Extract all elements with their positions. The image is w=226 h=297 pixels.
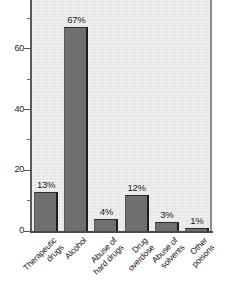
- bar: [64, 27, 88, 231]
- bar: [94, 219, 118, 231]
- y-tick-major: [24, 109, 31, 110]
- y-tick-minor: [27, 139, 31, 140]
- right-edge-mask: [214, 0, 226, 297]
- bar: [185, 228, 209, 231]
- bottom-edge-mask: [0, 292, 226, 297]
- y-tick-minor: [27, 79, 31, 80]
- y-tick-major: [24, 48, 31, 49]
- y-tick-major: [24, 231, 31, 232]
- bar-value-label: 1%: [179, 216, 215, 226]
- y-tick-major: [24, 170, 31, 171]
- bar-value-label: 67%: [58, 15, 94, 25]
- left-edge-mask: [0, 0, 12, 297]
- bar: [155, 222, 179, 231]
- bar: [34, 192, 58, 231]
- x-axis-line: [30, 231, 213, 233]
- y-axis-line: [30, 0, 32, 232]
- bar-value-label: 13%: [28, 180, 64, 190]
- bar-value-label: 12%: [119, 183, 155, 193]
- bar: [125, 195, 149, 231]
- y-tick-minor: [27, 200, 31, 201]
- bar-chart-figure: 020406080 13%67%4%12%3%1% Therapeutic dr…: [0, 0, 226, 297]
- y-tick-minor: [27, 18, 31, 19]
- bar-value-label: 4%: [88, 207, 124, 217]
- plot-area: [31, 0, 212, 232]
